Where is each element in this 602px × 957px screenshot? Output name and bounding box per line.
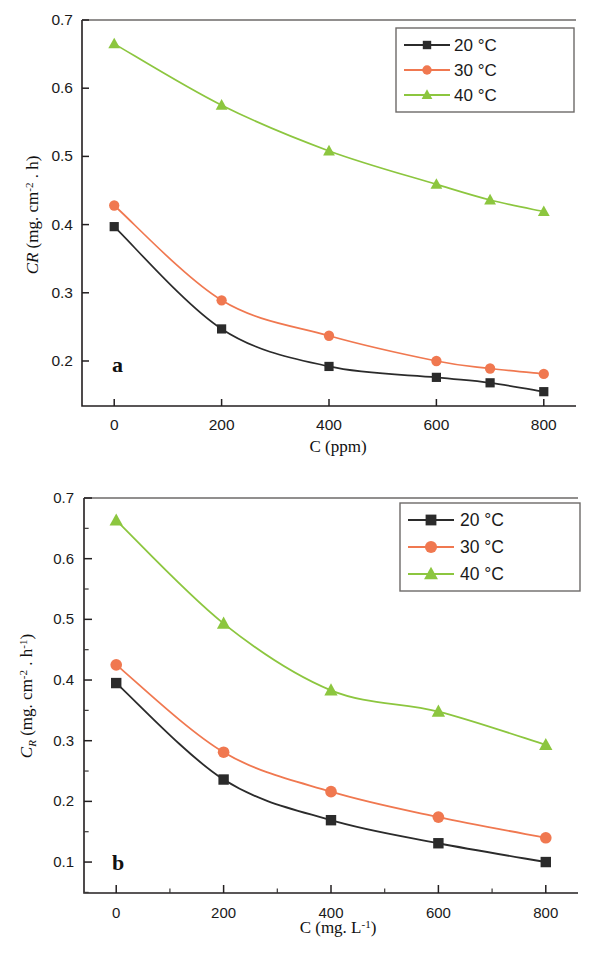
data-point-marker (110, 513, 123, 525)
chart-a-y-tick-label: 0.4 (51, 216, 73, 233)
panel-b: 0.10.20.30.40.50.60.70200400600800 20 °C… (0, 478, 602, 957)
legend-label-30c: 30 °C (460, 537, 504, 557)
legend-label-40c: 40 °C (460, 564, 504, 584)
data-point-marker (431, 356, 441, 366)
data-point-marker (110, 222, 119, 231)
chart-b-y-tick-label: 0.2 (53, 792, 74, 809)
data-point-marker (216, 295, 226, 305)
data-point-marker (324, 331, 334, 341)
legend-sample-marker (423, 41, 431, 49)
data-point-marker (109, 200, 119, 210)
data-point-marker (485, 363, 495, 373)
chart-b-x-tick-label: 600 (426, 904, 451, 921)
chart-a-x-tick-label: 800 (531, 416, 557, 433)
chart-a-x-tick-label: 200 (209, 416, 235, 433)
chart-b-y-tick-label: 0.4 (53, 671, 74, 688)
legend-label-20c: 20 °C (460, 510, 504, 530)
data-point-marker (326, 815, 336, 825)
chart-a-x-tick-label: 0 (110, 416, 119, 433)
chart-b-x-tick-label: 200 (211, 904, 236, 921)
chart-a: 0.20.30.40.50.60.70200400600800 20 °C30 … (0, 0, 602, 478)
data-point-marker (432, 373, 441, 382)
legend-label-30c: 30 °C (454, 61, 497, 80)
data-point-marker (217, 617, 230, 629)
data-point-marker (539, 387, 548, 396)
series-line-20c (116, 683, 546, 862)
chart-b-y-tick-label: 0.5 (53, 610, 74, 627)
chart-a-x-tick-label: 600 (423, 416, 449, 433)
data-point-marker (541, 857, 551, 867)
chart-a-y-tick-label: 0.2 (51, 352, 73, 369)
data-point-marker (218, 774, 228, 784)
chart-a-y-tick-label: 0.5 (51, 147, 73, 164)
figure-two-panel-corrosion-rate: 0.20.30.40.50.60.70200400600800 20 °C30 … (0, 0, 602, 957)
data-point-marker (433, 838, 443, 848)
data-point-marker (110, 659, 122, 671)
chart-a-y-tick-label: 0.7 (51, 11, 73, 28)
data-point-marker (324, 683, 337, 695)
chart-b-y-tick-label: 0.1 (53, 853, 74, 870)
legend-label-40c: 40 °C (454, 86, 497, 105)
data-point-marker (218, 746, 230, 758)
panel-a-y-axis-title: CR (mg. cm-2 . h) (23, 156, 42, 275)
chart-b-x-tick-label: 800 (533, 904, 558, 921)
data-point-marker (108, 38, 120, 49)
panel-a-x-axis-title: C (ppm) (309, 437, 366, 456)
panel-a: 0.20.30.40.50.60.70200400600800 20 °C30 … (0, 0, 602, 478)
legend-sample-marker (425, 541, 437, 553)
series-line-30c (114, 206, 544, 374)
panel-a-letter: a (112, 352, 123, 377)
data-point-marker (324, 362, 333, 371)
panel-b-x-axis-title: C (mg. L-1) (300, 918, 377, 937)
legend-sample-marker (426, 515, 437, 526)
chart-a-x-tick-label: 400 (316, 416, 342, 433)
data-point-marker (485, 378, 494, 387)
chart-a-y-tick-label: 0.6 (51, 79, 73, 96)
chart-b: 0.10.20.30.40.50.60.70200400600800 20 °C… (0, 478, 602, 957)
panel-b-letter: b (112, 850, 124, 875)
chart-b-y-tick-label: 0.3 (53, 732, 74, 749)
chart-a-legend: 20 °C30 °C40 °C (396, 28, 574, 112)
chart-b-y-tick-label: 0.6 (53, 550, 74, 567)
panel-b-y-axis-title: CR (mg. cm-2 . h-1) (17, 634, 38, 758)
chart-b-legend: 20 °C30 °C40 °C (400, 503, 580, 591)
data-point-marker (111, 678, 121, 688)
data-point-marker (325, 786, 337, 798)
data-point-marker (540, 832, 552, 844)
data-point-marker (539, 369, 549, 379)
data-point-marker (433, 811, 445, 823)
chart-a-y-tick-label: 0.3 (51, 284, 73, 301)
data-point-marker (216, 99, 228, 110)
chart-b-y-tick-label: 0.7 (53, 489, 74, 506)
legend-label-20c: 20 °C (454, 36, 497, 55)
legend-sample-marker (422, 65, 431, 74)
chart-b-x-tick-label: 0 (112, 904, 120, 921)
data-point-marker (217, 324, 226, 333)
